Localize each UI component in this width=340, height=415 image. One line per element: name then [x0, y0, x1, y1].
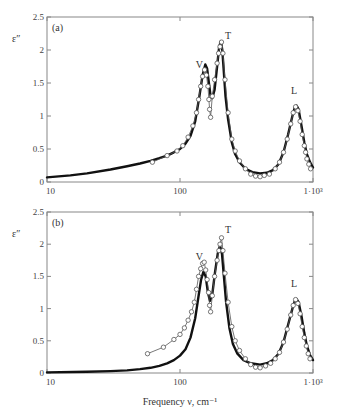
data-point-marker [305, 157, 309, 161]
data-point-marker [237, 348, 241, 352]
data-point-marker [204, 73, 208, 77]
data-point-marker [302, 335, 306, 339]
data-point-marker [150, 160, 154, 164]
y-tick-label: 2 [40, 45, 45, 55]
y-tick-label: 1.5 [33, 78, 45, 88]
data-point-marker [277, 160, 281, 164]
data-point-marker [308, 357, 312, 361]
data-point-marker [216, 51, 220, 55]
data-point-marker [178, 332, 182, 336]
data-point-marker [296, 109, 300, 113]
data-point-marker [210, 294, 214, 298]
data-point-marker [289, 122, 293, 126]
data-point-marker [223, 271, 227, 275]
data-point-marker [161, 345, 165, 349]
y-tick-label: 1 [40, 304, 45, 314]
x-tick-label: 10 [46, 186, 56, 196]
data-point-marker [249, 362, 253, 366]
data-point-marker [145, 352, 149, 356]
y-tick-label: 2.5 [33, 207, 45, 217]
model-curve [47, 246, 313, 373]
figure: 00.511.522.5101001·10³ε″(a)VTL 00.511.52… [0, 0, 340, 415]
data-point-marker [308, 167, 312, 171]
data-point-marker [186, 135, 190, 139]
x-tick-label: 10 [46, 377, 56, 387]
peak-label-t: T [225, 30, 231, 41]
data-point-marker [289, 313, 293, 317]
data-point-marker [226, 111, 230, 115]
data-point-marker [253, 174, 257, 178]
data-point-marker [230, 137, 234, 141]
data-point-marker [219, 40, 223, 44]
data-point-marker [165, 153, 169, 157]
data-point-marker [306, 352, 310, 356]
data-point-marker [243, 167, 247, 171]
data-point-marker [215, 258, 219, 262]
data-point-marker [212, 274, 216, 278]
x-tick-label: 100 [173, 377, 187, 387]
data-point-marker [302, 144, 306, 148]
data-point-marker [199, 84, 203, 88]
data-point-marker [181, 144, 185, 148]
data-point-marker [221, 248, 225, 252]
data-point-marker [215, 61, 219, 65]
y-tick-label: 0.5 [33, 144, 45, 154]
data-point-marker [233, 149, 237, 153]
data-point-marker [186, 318, 190, 322]
data-point-marker [207, 107, 211, 111]
x-tick-label: 100 [173, 186, 187, 196]
data-point-marker [208, 115, 212, 119]
data-point-marker [226, 300, 230, 304]
peak-label-t: T [225, 224, 231, 235]
y-tick-label: 1 [40, 111, 45, 121]
peak-label-l: L [291, 278, 297, 289]
data-point-marker [304, 344, 308, 348]
data-point-marker [223, 78, 227, 82]
data-point-marker [262, 173, 266, 177]
data-point-marker [194, 111, 198, 115]
plot-frame [47, 212, 313, 373]
data-point-marker [268, 361, 272, 365]
data-point-marker [291, 303, 295, 307]
data-point-marker [300, 132, 304, 136]
peak-label-v: V [196, 59, 204, 70]
y-tick-label: 2.5 [33, 12, 45, 22]
data-point-marker [194, 287, 198, 291]
plot-frame [47, 17, 313, 182]
data-point-marker [196, 274, 200, 278]
data-point-marker [175, 149, 179, 153]
data-point-marker [233, 339, 237, 343]
data-point-marker [218, 45, 222, 49]
data-point-marker [204, 268, 208, 272]
panel-label: (a) [52, 22, 63, 34]
data-point-marker [249, 172, 253, 176]
data-point-marker [277, 350, 281, 354]
data-point-marker [206, 290, 210, 294]
data-point-marker [205, 277, 209, 281]
data-point-marker [218, 242, 222, 246]
data-point-marker [212, 78, 216, 82]
data-point-marker [281, 340, 285, 344]
data-point-marker [307, 162, 311, 166]
data-point-marker [285, 327, 289, 331]
data-point-marker [182, 326, 186, 330]
data-point-marker [298, 119, 302, 123]
data-point-marker [192, 300, 196, 304]
data-point-marker [230, 324, 234, 328]
data-point-marker [208, 310, 212, 314]
y-tick-label: 0 [40, 368, 45, 378]
x-tick-label: 1·10³ [303, 186, 322, 196]
data-point-marker [237, 159, 241, 163]
data-point-marker [206, 84, 210, 88]
data-point-marker [296, 301, 300, 305]
data-point-marker [300, 324, 304, 328]
experiment-curve [152, 42, 310, 177]
data-point-marker [273, 357, 277, 361]
data-point-marker [221, 51, 225, 55]
y-tick-label: 0.5 [33, 336, 45, 346]
data-point-marker [281, 150, 285, 154]
data-point-marker [172, 337, 176, 341]
data-point-marker [263, 364, 267, 368]
x-tick-label: 1·10³ [303, 377, 322, 387]
data-point-marker [199, 267, 203, 271]
